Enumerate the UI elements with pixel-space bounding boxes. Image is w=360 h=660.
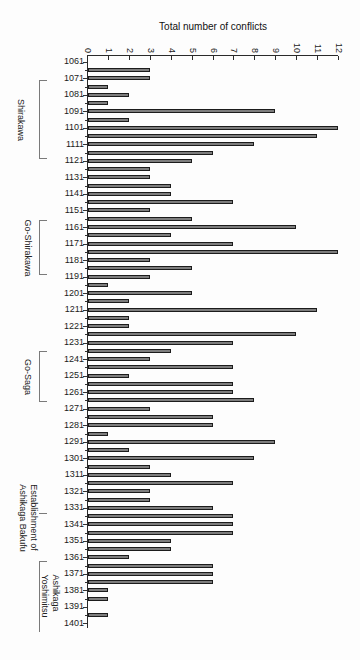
period-label-line: Establishment of <box>28 484 39 552</box>
year-label: 1331 <box>38 503 84 512</box>
bar <box>88 522 233 526</box>
bar <box>88 613 108 617</box>
bar <box>88 332 296 336</box>
bar <box>88 539 171 543</box>
bar <box>88 299 129 303</box>
bar <box>88 531 233 535</box>
bar <box>88 291 192 295</box>
year-label: 1261 <box>38 388 84 397</box>
y-axis-tick <box>85 400 88 401</box>
y-axis-tick <box>85 434 88 435</box>
y-axis-tick <box>83 194 87 195</box>
y-axis-tick <box>83 541 87 542</box>
x-axis-tick <box>87 56 88 60</box>
y-axis-tick <box>83 524 87 525</box>
y-axis-tick <box>83 392 87 393</box>
bar <box>88 225 296 229</box>
period-bracket-line <box>39 80 40 159</box>
y-axis-tick <box>85 334 88 335</box>
x-axis-tick-label: 5 <box>188 48 197 53</box>
period-bracket-top <box>39 220 47 221</box>
period-label-line: Ashikaga <box>50 575 61 618</box>
bar <box>88 258 150 262</box>
x-axis-tick-label: 9 <box>271 48 280 53</box>
y-axis-tick <box>85 219 88 220</box>
y-axis-tick <box>85 367 88 368</box>
y-axis-tick <box>83 475 87 476</box>
x-axis-tick-label: 8 <box>250 48 259 53</box>
y-axis-tick <box>85 483 88 484</box>
y-axis-tick <box>83 590 87 591</box>
bar <box>88 489 150 493</box>
y-axis-tick <box>83 359 87 360</box>
y-axis-tick <box>83 623 87 624</box>
bar <box>88 432 108 436</box>
y-axis-tick <box>83 144 87 145</box>
year-label: 1231 <box>38 338 84 347</box>
bar <box>88 341 233 345</box>
bar <box>88 134 317 138</box>
bar <box>88 93 129 97</box>
bar <box>88 118 129 122</box>
bar <box>88 365 233 369</box>
y-axis-tick <box>83 260 87 261</box>
period-bracket-top <box>39 561 47 562</box>
bar <box>88 217 192 221</box>
bar <box>88 473 171 477</box>
y-axis-tick <box>83 376 87 377</box>
year-label: 1291 <box>38 437 84 446</box>
bar <box>88 465 150 469</box>
y-axis-tick <box>85 186 88 187</box>
y-axis-tick <box>83 508 87 509</box>
y-axis-tick <box>83 128 87 129</box>
year-label: 1131 <box>38 173 84 182</box>
bar <box>88 283 108 287</box>
year-label: 1351 <box>38 536 84 545</box>
y-axis-tick <box>83 491 87 492</box>
y-axis-tick <box>85 87 88 88</box>
bar <box>88 423 213 427</box>
period-label: Go-Saga <box>22 358 33 394</box>
x-axis-tick <box>317 56 318 60</box>
bar <box>88 266 192 270</box>
x-axis-tick-label: 7 <box>229 48 238 53</box>
x-axis-tick-label: 3 <box>146 48 155 53</box>
y-axis-tick <box>83 244 87 245</box>
bar <box>88 580 213 584</box>
bar <box>88 588 108 592</box>
bar <box>88 407 150 411</box>
bar <box>88 415 213 419</box>
bar <box>88 324 129 328</box>
bar <box>88 275 150 279</box>
period-label: AshikagaYoshimitsu <box>39 575 61 618</box>
y-axis-tick <box>83 557 87 558</box>
y-axis-tick <box>85 500 88 501</box>
bar <box>88 308 317 312</box>
bar <box>88 159 192 163</box>
y-axis-tick <box>83 210 87 211</box>
bar <box>88 208 150 212</box>
year-label: 1151 <box>38 206 84 215</box>
x-axis-tick <box>129 56 130 60</box>
y-axis-tick <box>83 78 87 79</box>
year-label: 1271 <box>38 404 84 413</box>
bar <box>88 572 213 576</box>
y-axis-tick <box>85 153 88 154</box>
y-axis-tick <box>85 136 88 137</box>
period-label-line: Go-Shirakawa <box>22 219 33 276</box>
period-bracket-line <box>39 351 40 402</box>
y-axis-tick <box>85 582 88 583</box>
y-axis-tick <box>85 417 88 418</box>
bar <box>88 506 213 510</box>
x-axis-tick <box>171 56 172 60</box>
y-axis-tick <box>85 467 88 468</box>
period-label-line: Ashikaga Bakufu <box>17 484 28 552</box>
period-label: Shirakawa <box>15 99 26 141</box>
y-axis-tick <box>85 516 88 517</box>
x-axis-tick-label: 11 <box>313 44 322 53</box>
bar <box>88 151 213 155</box>
year-label: 1301 <box>38 454 84 463</box>
bar <box>88 357 150 361</box>
x-axis-tick-label: 10 <box>292 43 301 53</box>
x-axis-tick-label: 6 <box>209 48 218 53</box>
